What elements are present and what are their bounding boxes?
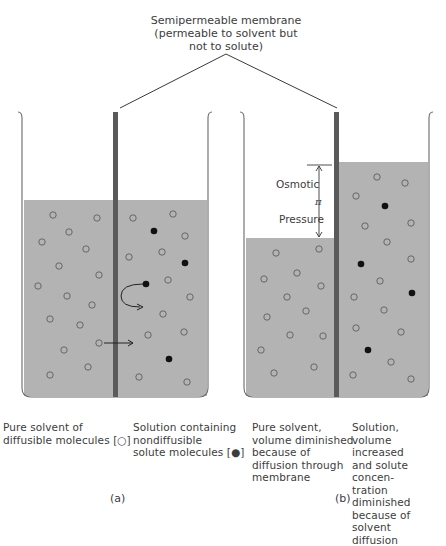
beaker-b: [240, 112, 433, 397]
beaker-a: [18, 112, 212, 397]
osmotic-label: Osmotic: [276, 178, 319, 190]
caption-b-right: Solution, volume increased and solute co…: [352, 421, 446, 546]
panel-label-a: (a): [110, 492, 125, 505]
membrane-leader-lines: [120, 54, 337, 108]
beaker-a-membrane: [113, 112, 118, 397]
caption-b-left: Pure solvent, volume diminished because …: [252, 421, 354, 484]
membrane-label: Semipermeable membrane (permeable to sol…: [150, 14, 302, 53]
caption-a-left: Pure solvent of diffusible molecules [○]: [3, 421, 131, 446]
beaker-b-liquid-left: [246, 238, 334, 396]
beaker-b-liquid-right: [339, 162, 428, 396]
caption-a-right: Solution containing nondiffusible solute…: [133, 421, 244, 459]
beaker-b-membrane: [334, 112, 339, 397]
panel-label-b: (b): [335, 492, 351, 505]
pi-symbol: π: [315, 196, 322, 207]
pressure-label: Pressure: [279, 213, 324, 225]
